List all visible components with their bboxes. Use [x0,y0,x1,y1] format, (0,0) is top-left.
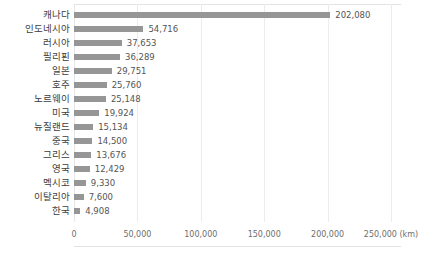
category-label: 뉴질랜드 [0,120,70,134]
bar-container [74,134,92,148]
category-label: 인도네시아 [0,22,70,36]
bar-rows: 캐나다202,080인도네시아54,716러시아37,653필리핀36,289일… [0,8,426,218]
category-label: 미국 [0,106,70,120]
bar-row: 뉴질랜드15,134 [0,120,426,134]
bar-value-label: 19,924 [104,106,134,120]
bar [74,96,106,102]
bar-value-label: 36,289 [125,50,155,64]
bar-container [74,92,106,106]
category-label: 러시아 [0,36,70,50]
bar-value-label: 15,134 [98,120,128,134]
bar-row: 호주25,760 [0,78,426,92]
bar-row: 인도네시아54,716 [0,22,426,36]
x-tick-label: 200,000 [311,228,344,242]
bar [74,152,91,158]
bar-row: 이탈리아7,600 [0,190,426,204]
bar-value-label: 4,908 [85,204,109,218]
x-tick-label: 250,000 (km) [364,228,418,242]
category-label: 필리핀 [0,50,70,64]
bar-container [74,64,112,78]
bar-container [74,120,93,134]
bar-row: 영국12,429 [0,162,426,176]
category-label: 이탈리아 [0,190,70,204]
bar-container [74,106,99,120]
bar-container [74,148,91,162]
bar [74,82,107,88]
bar-value-label: 25,148 [111,92,141,106]
bar-row: 그리스13,676 [0,148,426,162]
bar [74,138,92,144]
bar [74,40,122,46]
bar-row: 러시아37,653 [0,36,426,50]
bar-container [74,50,120,64]
x-tick-label: 150,000 [248,228,281,242]
category-label: 호주 [0,78,70,92]
bar-row: 중국14,500 [0,134,426,148]
bar-value-label: 12,429 [95,162,125,176]
category-label: 캐나다 [0,8,70,22]
bar-row: 캐나다202,080 [0,8,426,22]
bar [74,124,93,130]
x-axis-ticks: 050,000100,000150,000200,000250,000 (km) [0,228,426,242]
bar [74,208,80,214]
x-tick-label: 0 [71,228,76,242]
bar [74,68,112,74]
bar-value-label: 14,500 [97,134,127,148]
bar-value-label: 25,760 [112,78,142,92]
bar-value-label: 13,676 [96,148,126,162]
bar-container [74,162,90,176]
bar-row: 한국4,908 [0,204,426,218]
bar-value-label: 37,653 [127,36,157,50]
category-label: 그리스 [0,148,70,162]
category-label: 멕시코 [0,176,70,190]
bar [74,54,120,60]
x-tick-label: 50,000 [123,228,151,242]
bar-value-label: 7,600 [89,190,113,204]
bar-row: 일본29,751 [0,64,426,78]
bar [74,110,99,116]
bar-container [74,176,86,190]
bar-value-label: 202,080 [335,8,370,22]
bar [74,166,90,172]
bar-container [74,22,143,36]
bar-chart: 캐나다202,080인도네시아54,716러시아37,653필리핀36,289일… [0,0,426,253]
category-label: 영국 [0,162,70,176]
bar-row: 필리핀36,289 [0,50,426,64]
bar-container [74,190,84,204]
bar-container [74,36,122,50]
bar-row: 노르웨이25,148 [0,92,426,106]
bar [74,26,143,32]
bar [74,194,84,200]
bar [74,12,330,18]
category-label: 중국 [0,134,70,148]
category-label: 노르웨이 [0,92,70,106]
bar-row: 멕시코9,330 [0,176,426,190]
bar-container [74,78,107,92]
category-label: 한국 [0,204,70,218]
bar-container [74,8,330,22]
bar-container [74,204,80,218]
bar-value-label: 54,716 [148,22,178,36]
bar [74,180,86,186]
bar-row: 미국19,924 [0,106,426,120]
bar-value-label: 29,751 [117,64,147,78]
x-tick-label: 100,000 [184,228,217,242]
bar-value-label: 9,330 [91,176,115,190]
category-label: 일본 [0,64,70,78]
